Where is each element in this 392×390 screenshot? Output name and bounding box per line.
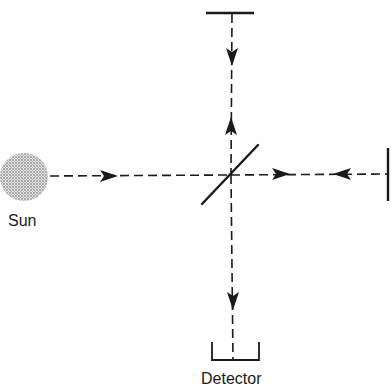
detector-label: Detector <box>201 370 261 388</box>
diagram-svg <box>0 0 392 390</box>
arrow-right-icon <box>100 170 118 182</box>
sun-icon <box>0 153 48 201</box>
sun-label: Sun <box>8 212 36 230</box>
detector-beam <box>231 175 233 361</box>
detector-icon <box>212 342 259 360</box>
top-arm-beam <box>231 14 232 175</box>
interferometer-diagram: Sun Detector <box>0 0 392 390</box>
right-arm-beam <box>231 174 387 175</box>
incoming-beam <box>50 175 231 176</box>
